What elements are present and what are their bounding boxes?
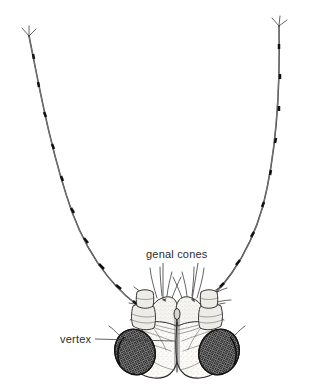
median-ocellus (174, 309, 180, 320)
antenna-left-segment-bands (33, 54, 138, 305)
antennal-scape-right (199, 290, 223, 330)
antenna-left (22, 26, 146, 311)
figure-root: genal cones vertex (0, 0, 322, 391)
antenna-left-apical-seta (22, 26, 36, 36)
antennal-scape-left (132, 290, 156, 330)
insect-head-illustration: genal cones vertex (0, 0, 322, 391)
antenna-right-segment-bands (203, 44, 280, 304)
coronal-suture (174, 309, 180, 373)
antenna-right (196, 16, 287, 310)
label-vertex: vertex (60, 333, 91, 345)
label-genal-cones: genal cones (146, 248, 208, 260)
antenna-right-apical-seta (272, 16, 287, 26)
leader-genal-cone-right (192, 263, 198, 300)
